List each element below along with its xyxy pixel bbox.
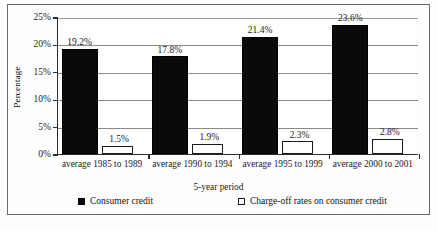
bar-charge-off-rate: 1.5% bbox=[102, 146, 133, 154]
bar-value-label: 2.8% bbox=[380, 128, 400, 138]
gridline bbox=[58, 18, 418, 19]
x-axis-tick bbox=[329, 154, 330, 159]
legend-item[interactable]: Consumer credit bbox=[78, 197, 153, 207]
bar-consumer-credit: 21.4% bbox=[242, 37, 278, 154]
x-axis-tick bbox=[419, 154, 420, 159]
bar-consumer-credit: 19.2% bbox=[62, 49, 98, 154]
bar-value-label: 21.4% bbox=[248, 26, 273, 36]
bar-charge-off-rate: 1.9% bbox=[192, 144, 223, 154]
plot-inner: 0%5%10%15%20%25%19.2%1.5%17.8%1.9%21.4%2… bbox=[58, 18, 418, 154]
bar-charge-off-rate: 2.3% bbox=[282, 141, 313, 154]
y-axis-tick-label: 15% bbox=[34, 68, 51, 78]
chart-figure: Percentage 0%5%10%15%20%25%19.2%1.5%17.8… bbox=[0, 0, 437, 231]
legend-item-label: Consumer credit bbox=[90, 197, 153, 207]
y-axis-tick-label: 0% bbox=[38, 150, 51, 160]
y-axis-tick-label: 25% bbox=[34, 13, 51, 23]
x-axis-category-label: average 2000 to 2001 bbox=[328, 160, 418, 169]
x-axis-tick bbox=[239, 154, 240, 159]
bar-charge-off-rate: 2.8% bbox=[372, 139, 403, 154]
chart-legend: Consumer creditCharge-off rates on consu… bbox=[0, 197, 437, 211]
y-axis-tick bbox=[53, 100, 58, 101]
filled-square-icon bbox=[78, 198, 85, 205]
bar-value-label: 17.8% bbox=[158, 46, 183, 56]
bar-value-label: 2.3% bbox=[290, 131, 310, 141]
bar-consumer-credit: 23.6% bbox=[332, 25, 368, 154]
y-axis-tick bbox=[53, 17, 58, 18]
y-axis-tick bbox=[53, 154, 58, 155]
bar-value-label: 1.9% bbox=[199, 133, 219, 143]
x-axis-category-label: average 1985 to 1989 bbox=[57, 160, 147, 169]
y-axis-tick-label: 20% bbox=[34, 41, 51, 51]
y-axis-tick-label: 5% bbox=[38, 123, 51, 133]
x-axis-category-label: average 1990 to 1994 bbox=[147, 160, 237, 169]
x-axis-category-label: average 1995 to 1999 bbox=[238, 160, 328, 169]
x-axis-title-label: 5-year period bbox=[194, 182, 244, 192]
bar-consumer-credit: 17.8% bbox=[152, 56, 188, 154]
y-axis-tick bbox=[53, 72, 58, 73]
bar-value-label: 1.5% bbox=[109, 135, 129, 145]
bar-value-label: 19.2% bbox=[67, 38, 92, 48]
hollow-square-icon bbox=[238, 198, 245, 205]
y-axis-title-label: Percentage bbox=[12, 66, 22, 107]
plot-area: 0%5%10%15%20%25%19.2%1.5%17.8%1.9%21.4%2… bbox=[57, 18, 418, 155]
y-axis-tick bbox=[53, 45, 58, 46]
x-axis-tick bbox=[148, 154, 149, 159]
legend-item-label: Charge-off rates on consumer credit bbox=[250, 197, 387, 207]
y-axis-tick-label: 10% bbox=[34, 95, 51, 105]
legend-item[interactable]: Charge-off rates on consumer credit bbox=[238, 197, 387, 207]
x-axis-title: 5-year period bbox=[0, 182, 437, 192]
bar-value-label: 23.6% bbox=[338, 14, 363, 24]
y-axis-tick bbox=[53, 127, 58, 128]
y-axis-title: Percentage bbox=[10, 18, 24, 155]
